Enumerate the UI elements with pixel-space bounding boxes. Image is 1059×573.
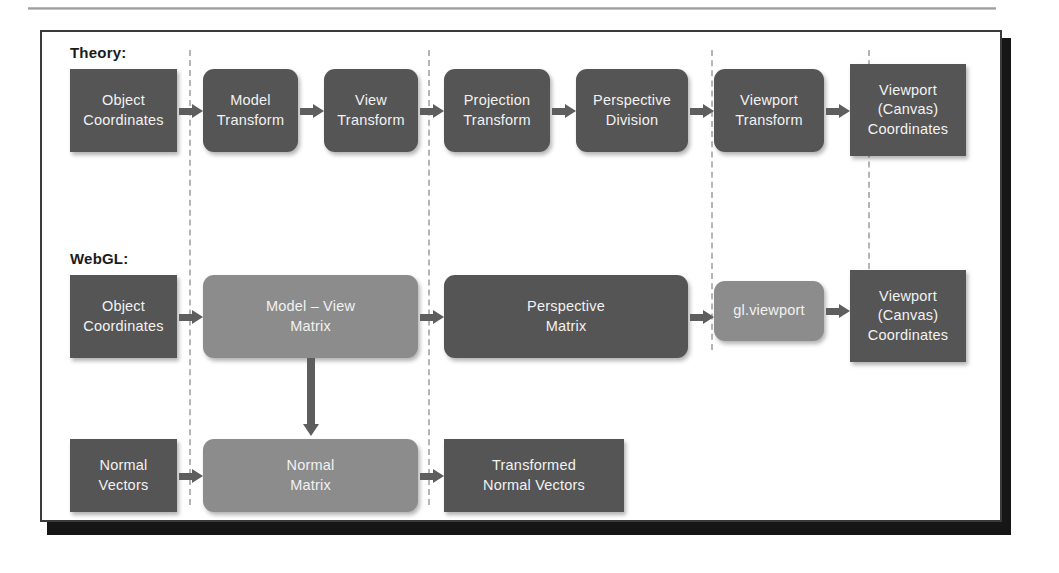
node-line-1: Viewport xyxy=(740,91,798,111)
divider-3 xyxy=(711,50,713,350)
node-line-1: Object xyxy=(102,297,145,317)
node-line-2: Transform xyxy=(337,111,404,131)
arrow-theory-5 xyxy=(690,104,714,118)
node-line-3: Coordinates xyxy=(868,120,948,140)
node-line-2: (Canvas) xyxy=(878,100,938,120)
node-line-2: (Canvas) xyxy=(878,306,938,326)
theory-node-viewport-canvas-coordinates: Viewport (Canvas) Coordinates xyxy=(850,64,966,156)
node-line-2: Matrix xyxy=(290,476,331,496)
theory-node-model-transform: Model Transform xyxy=(203,69,298,152)
node-line-2: Transform xyxy=(217,111,284,131)
node-line-1: View xyxy=(355,91,387,111)
node-line-1: Model xyxy=(230,91,271,111)
arrow-webgl-3 xyxy=(690,310,714,324)
node-line-1: Viewport xyxy=(879,81,937,101)
node-line-2: Vectors xyxy=(99,476,149,496)
node-line-1: Perspective xyxy=(527,297,605,317)
node-line-3: Coordinates xyxy=(868,326,948,346)
arrow-webgl-1 xyxy=(179,310,203,324)
arrow-theory-2 xyxy=(300,104,324,118)
node-line-1: Object xyxy=(102,91,145,111)
theory-section-label: Theory: xyxy=(70,44,126,61)
arrow-theory-4 xyxy=(552,104,576,118)
theory-node-view-transform: View Transform xyxy=(324,69,418,152)
page-top-rule xyxy=(28,7,996,10)
node-line-2: Matrix xyxy=(546,317,587,337)
node-line-1: Transformed xyxy=(492,456,576,476)
arrow-theory-6 xyxy=(826,104,850,118)
arrow-theory-1 xyxy=(179,104,203,118)
theory-node-object-coordinates: Object Coordinates xyxy=(70,69,177,152)
webgl-node-perspective-matrix: Perspective Matrix xyxy=(444,275,688,358)
webgl-node-gl-viewport: gl.viewport xyxy=(714,281,824,341)
node-line-2: Transform xyxy=(735,111,802,131)
arrow-webgl-2 xyxy=(420,310,444,324)
node-line-1: Model – View xyxy=(266,297,355,317)
node-line-1: Viewport xyxy=(879,287,937,307)
webgl-node-model-view-matrix: Model – View Matrix xyxy=(203,275,418,358)
normal-node-transformed-normal-vectors: Transformed Normal Vectors xyxy=(444,439,624,512)
arrow-normal-2 xyxy=(420,469,444,483)
webgl-node-object-coordinates: Object Coordinates xyxy=(70,275,177,358)
webgl-node-viewport-canvas-coordinates: Viewport (Canvas) Coordinates xyxy=(850,270,966,362)
divider-1 xyxy=(189,50,191,505)
node-line-2: Coordinates xyxy=(83,111,163,131)
node-line-1: Projection xyxy=(464,91,530,111)
node-line-1: gl.viewport xyxy=(733,301,805,321)
arrow-normal-1 xyxy=(179,469,203,483)
node-line-1: Normal xyxy=(287,456,335,476)
node-line-2: Transform xyxy=(463,111,530,131)
figure-page: Theory: Object Coordinates Model Transfo… xyxy=(0,0,1059,573)
theory-node-viewport-transform: Viewport Transform xyxy=(714,69,824,152)
figure-frame: Theory: Object Coordinates Model Transfo… xyxy=(40,30,1002,522)
node-line-1: Perspective xyxy=(593,91,671,111)
node-line-2: Coordinates xyxy=(83,317,163,337)
arrow-theory-3 xyxy=(420,104,444,118)
arrow-model-view-to-normal-matrix xyxy=(303,358,319,438)
node-line-2: Normal Vectors xyxy=(483,476,585,496)
normal-node-normal-vectors: Normal Vectors xyxy=(70,439,177,512)
theory-node-perspective-division: Perspective Division xyxy=(576,69,688,152)
diagram-stage: Theory: Object Coordinates Model Transfo… xyxy=(42,32,1000,520)
theory-node-projection-transform: Projection Transform xyxy=(444,69,550,152)
webgl-section-label: WebGL: xyxy=(70,250,128,267)
normal-node-normal-matrix: Normal Matrix xyxy=(203,439,418,512)
divider-2 xyxy=(428,50,430,505)
node-line-2: Division xyxy=(606,111,658,131)
node-line-2: Matrix xyxy=(290,317,331,337)
arrow-webgl-4 xyxy=(826,304,850,318)
node-line-1: Normal xyxy=(100,456,148,476)
